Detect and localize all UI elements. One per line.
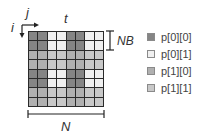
- legend-swatch-icon: [147, 33, 155, 41]
- grid-cell-p01: [85, 79, 93, 87]
- grid-cell-p11: [85, 51, 93, 59]
- grid-cell-p10: [29, 88, 37, 96]
- grid-cell-p10: [76, 98, 84, 106]
- legend-item: p[1][1]: [147, 83, 192, 93]
- grid-cell-p11: [95, 88, 103, 96]
- grid-cell-p11: [85, 88, 93, 96]
- grid-cell-p10: [38, 51, 46, 59]
- grid-cell-p10: [67, 98, 75, 106]
- legend-label: p[0][0]: [161, 31, 192, 43]
- grid-cell-p01: [57, 79, 65, 87]
- grid-cell-p00: [29, 32, 37, 40]
- grid-cell-p01: [48, 70, 56, 78]
- grid-cell-p11: [95, 98, 103, 106]
- nb-label: NB: [117, 34, 134, 48]
- grid-cell-p00: [67, 41, 75, 49]
- grid-cell-p01: [95, 32, 103, 40]
- grid-cell-p11: [57, 51, 65, 59]
- grid-cell-p11: [85, 98, 93, 106]
- grid-cell-p10: [76, 60, 84, 68]
- grid-cell-p01: [85, 41, 93, 49]
- grid-cell-p01: [57, 32, 65, 40]
- grid-cell-p00: [38, 70, 46, 78]
- grid-cell-p11: [48, 88, 56, 96]
- n-label: N: [61, 119, 70, 134]
- grid-cell-p10: [29, 51, 37, 59]
- grid-cell-p11: [95, 60, 103, 68]
- grid-cell-p01: [48, 32, 56, 40]
- grid-cell-p10: [38, 98, 46, 106]
- grid-cell-p00: [67, 70, 75, 78]
- grid-cell-p00: [29, 70, 37, 78]
- legend-label: p[1][1]: [161, 82, 192, 94]
- grid-cell-p10: [76, 51, 84, 59]
- grid-cell-p11: [95, 51, 103, 59]
- grid-cell-p00: [38, 41, 46, 49]
- grid-cell-p11: [57, 88, 65, 96]
- legend-item: p[1][0]: [147, 66, 192, 76]
- grid-cell-p00: [76, 41, 84, 49]
- legend-item: p[0][1]: [147, 49, 192, 59]
- legend-swatch-icon: [147, 50, 155, 58]
- legend-swatch-icon: [147, 84, 155, 92]
- grid-cell-p01: [95, 79, 103, 87]
- grid-cell-p00: [76, 70, 84, 78]
- grid-cell-p01: [85, 70, 93, 78]
- grid-cell-p01: [95, 41, 103, 49]
- grid-cell-p11: [57, 98, 65, 106]
- grid-cell-p10: [67, 51, 75, 59]
- grid-cell-p00: [76, 79, 84, 87]
- grid-cell-p00: [29, 79, 37, 87]
- grid-cell-p11: [48, 51, 56, 59]
- grid-cell-p11: [48, 60, 56, 68]
- grid-cell-p01: [95, 70, 103, 78]
- grid-cell-p00: [67, 32, 75, 40]
- grid-cell-p00: [76, 32, 84, 40]
- grid-cell-p01: [48, 79, 56, 87]
- grid-cell-p10: [38, 60, 46, 68]
- legend-swatch-icon: [147, 67, 155, 75]
- legend-label: p[1][0]: [161, 65, 192, 77]
- partition-grid: [28, 31, 104, 107]
- grid-cell-p10: [76, 88, 84, 96]
- grid-cell-p11: [85, 60, 93, 68]
- grid-cell-p01: [57, 70, 65, 78]
- grid-cell-p01: [48, 41, 56, 49]
- grid-cell-p10: [38, 88, 46, 96]
- legend-label: p[0][1]: [161, 48, 192, 60]
- grid-cell-p10: [67, 88, 75, 96]
- grid-cell-p11: [57, 60, 65, 68]
- grid-cell-p10: [29, 60, 37, 68]
- legend-item: p[0][0]: [147, 32, 192, 42]
- grid-cell-p00: [29, 41, 37, 49]
- grid-cell-p01: [57, 41, 65, 49]
- grid-cell-p11: [48, 98, 56, 106]
- grid-cell-p00: [38, 79, 46, 87]
- grid-cell-p00: [38, 32, 46, 40]
- grid-cell-p01: [85, 32, 93, 40]
- grid-cell-p10: [29, 98, 37, 106]
- grid-cell-p00: [67, 79, 75, 87]
- grid-cell-p10: [67, 60, 75, 68]
